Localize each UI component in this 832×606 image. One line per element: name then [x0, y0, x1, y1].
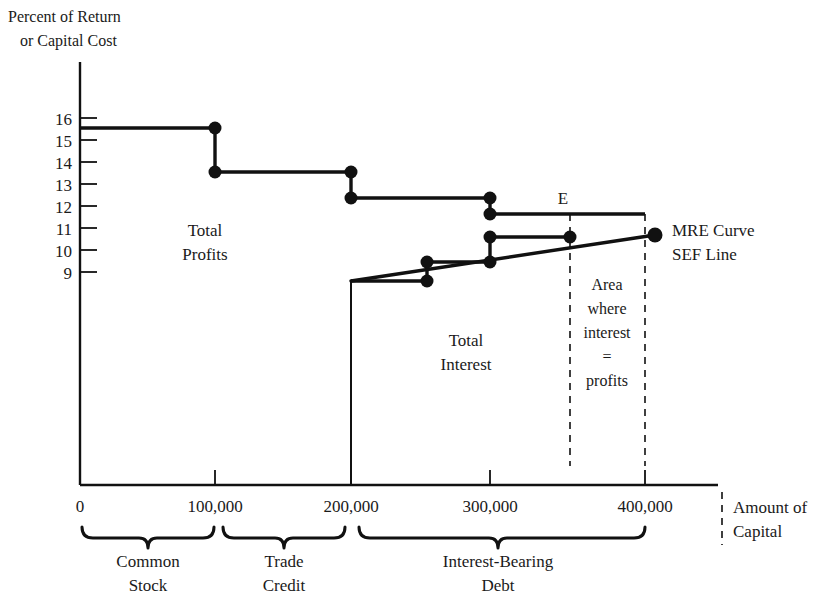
- annotation-total-profits-line2: Profits: [182, 245, 227, 264]
- x-tick-label-300000: 300,000: [462, 497, 517, 516]
- x-tick-label-100000: 100,000: [187, 497, 242, 516]
- y-axis-tick-labels: 16 15 14 13 12 11 10 9: [55, 110, 73, 283]
- annotation-total-interest-line1: Total: [449, 331, 484, 350]
- sef-line: [351, 235, 655, 281]
- marker-200k-12-5: [345, 192, 358, 205]
- brace-label-interest-bearing-debt-line2: Debt: [481, 576, 514, 595]
- annotation-area-line4: =: [602, 348, 611, 365]
- marker-300k-11-8: [484, 208, 497, 221]
- annotation-area-line1: Area: [591, 276, 622, 293]
- annotation-total-profits-line1: Total: [188, 221, 223, 240]
- y-axis-ticks: [80, 118, 97, 272]
- marker-sef-endpoint: [648, 228, 663, 243]
- marker-100k-13-7: [209, 166, 222, 179]
- annotation-mre-curve: MRE Curve: [672, 221, 755, 240]
- x-tick-label-400000: 400,000: [617, 497, 672, 516]
- y-tick-label-14: 14: [55, 154, 73, 173]
- y-tick-label-15: 15: [55, 132, 72, 151]
- marker-100k-15-7: [209, 122, 222, 135]
- marker-200k-13-7: [345, 166, 358, 179]
- x-axis-ticks: [215, 470, 645, 485]
- y-axis-title-line1: Percent of Return: [8, 8, 121, 25]
- x-tick-label-200000: 200,000: [323, 497, 378, 516]
- x-axis-title-line2: Capital: [733, 522, 782, 541]
- annotation-area-line5: profits: [586, 372, 628, 390]
- x-axis-title-line1: Amount of: [733, 498, 807, 517]
- y-tick-label-9: 9: [64, 264, 73, 283]
- annotation-point-e: E: [558, 189, 568, 208]
- x-axis-tick-labels: 0 100,000 200,000 300,000 400,000: [76, 497, 673, 516]
- chart-svg: Percent of Return or Capital Cost 16 15 …: [0, 0, 832, 606]
- annotation-sef-line: SEF Line: [672, 245, 737, 264]
- category-brace-common-stock: Common Stock: [82, 527, 214, 595]
- annotation-area-where-interest-equals-profits: Area where interest = profits: [583, 276, 631, 390]
- chart-figure: Percent of Return or Capital Cost 16 15 …: [0, 0, 832, 606]
- y-axis-title-line2: or Capital Cost: [20, 32, 117, 50]
- marker-300k-9-85: [484, 256, 497, 269]
- brace-label-interest-bearing-debt-line1: Interest-Bearing: [443, 552, 554, 571]
- brace-label-common-stock-line1: Common: [116, 552, 180, 571]
- y-tick-label-10: 10: [55, 242, 72, 261]
- x-tick-label-0: 0: [76, 497, 85, 516]
- marker-300k-10-8: [484, 231, 497, 244]
- y-tick-label-11: 11: [56, 220, 72, 239]
- y-tick-label-16: 16: [55, 110, 72, 129]
- category-brace-interest-bearing-debt: Interest-Bearing Debt: [359, 527, 645, 595]
- annotation-area-line3: interest: [583, 324, 631, 341]
- marker-300k-12-5: [484, 192, 497, 205]
- marker-255k-9-0: [421, 275, 434, 288]
- marker-255k-9-85: [421, 256, 434, 269]
- y-tick-label-12: 12: [55, 198, 72, 217]
- brace-label-trade-credit-line1: Trade: [264, 552, 303, 571]
- y-tick-label-13: 13: [55, 176, 72, 195]
- annotation-area-line2: where: [587, 300, 626, 317]
- brace-label-trade-credit-line2: Credit: [263, 576, 306, 595]
- category-brace-trade-credit: Trade Credit: [223, 527, 345, 595]
- annotation-total-interest-line2: Interest: [441, 355, 492, 374]
- brace-label-common-stock-line2: Stock: [129, 576, 168, 595]
